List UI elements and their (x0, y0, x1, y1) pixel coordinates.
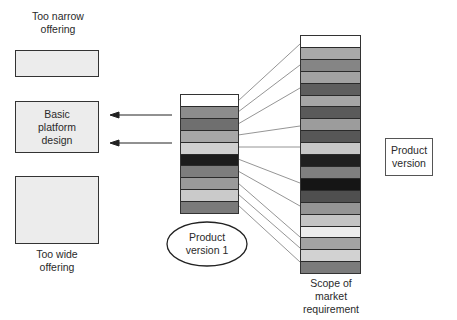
too-wide-label: Too wide offering (24, 248, 90, 274)
too-wide-box (15, 176, 99, 244)
market-requirement-segment (301, 238, 360, 250)
product-version-1-segment (181, 143, 238, 155)
market-requirement-segment (301, 119, 360, 131)
connector-line (238, 194, 300, 248)
arrowhead-left-icon (110, 112, 119, 118)
market-requirement-segment (301, 179, 360, 191)
market-requirement-segment (301, 48, 360, 60)
market-requirement-segment (301, 250, 360, 262)
product-version-1-segment (181, 131, 238, 143)
market-requirement-segment (301, 96, 360, 108)
market-requirement-segment (301, 131, 360, 143)
connector-line (238, 183, 300, 237)
too-narrow-box (15, 50, 99, 77)
product-version-1-segment (181, 190, 238, 202)
market-requirement-segment (301, 72, 360, 84)
market-requirement-segment (301, 167, 360, 179)
product-version-box: Product version (385, 138, 433, 176)
product-version-1-segment (181, 202, 238, 213)
product-version-1-segment (181, 178, 238, 190)
product-version-1-segment (181, 166, 238, 178)
too-narrow-label: Too narrow offering (28, 10, 88, 36)
market-requirement-segment (301, 36, 360, 48)
market-requirement-segment (301, 107, 360, 119)
market-requirement-segment (301, 262, 360, 273)
connector-line (238, 88, 300, 124)
market-requirement-segment (301, 155, 360, 167)
connector-line (238, 171, 300, 206)
product-version-1-segment (181, 107, 238, 119)
market-requirement-segment (301, 84, 360, 96)
connector-line (238, 126, 300, 135)
product-version-1-segment (181, 95, 238, 107)
product-version-1-label: Product version 1 (177, 231, 237, 257)
product-version-1-segment (181, 119, 238, 131)
market-requirement-segment (301, 215, 360, 227)
scope-of-market-label: Scope of market requirement (298, 277, 364, 316)
basic-platform-box: Basic platform design (15, 101, 99, 153)
connector-line (238, 205, 300, 262)
product-version-label: Product version (386, 144, 432, 170)
connector-line (238, 159, 300, 183)
product-version-1-segment (181, 155, 238, 167)
market-requirement-segment (301, 143, 360, 155)
market-requirement-segment (301, 227, 360, 239)
arrowhead-left-icon (110, 140, 119, 146)
product-version-1-column (180, 94, 239, 214)
market-requirement-segment (301, 203, 360, 215)
market-requirement-segment (301, 191, 360, 203)
basic-platform-label: Basic platform design (30, 108, 84, 147)
market-requirement-segment (301, 60, 360, 72)
market-requirement-column (300, 35, 361, 274)
